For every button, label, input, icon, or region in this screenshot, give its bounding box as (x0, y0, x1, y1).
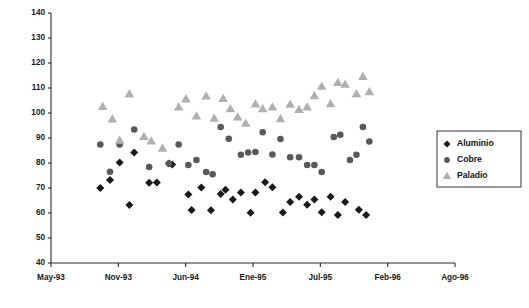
data-point-circle (259, 129, 266, 136)
y-axis-tick-label: 40 (36, 258, 46, 267)
data-point-circle (107, 168, 114, 175)
y-axis-tick-label: 110 (32, 83, 46, 92)
data-point-circle (97, 141, 104, 148)
data-point-circle (209, 171, 216, 178)
y-axis-tick-label: 60 (36, 208, 46, 217)
y-axis-tick-label: 130 (31, 33, 45, 42)
x-axis-tick-label: Nov-93 (105, 273, 133, 282)
data-point-circle (238, 151, 245, 158)
y-axis-tick-label: 120 (31, 58, 45, 67)
x-axis-tick-label: Jul-95 (308, 273, 332, 282)
data-point-circle (185, 162, 192, 169)
x-axis-tick-label: Ene-95 (240, 273, 267, 282)
data-point-circle (360, 124, 367, 131)
data-point-circle (366, 138, 373, 145)
data-point-circle (217, 124, 224, 131)
data-point-circle (146, 164, 153, 171)
data-point-circle (269, 151, 276, 158)
data-point-circle (347, 157, 354, 164)
data-point-circle (353, 151, 360, 158)
data-point-circle (175, 141, 182, 148)
data-point-circle (296, 154, 303, 161)
legend-item-label: Cobre (457, 154, 482, 164)
data-point-circle (166, 160, 173, 167)
data-point-circle (277, 136, 284, 143)
data-point-circle (331, 134, 338, 141)
chart-legend[interactable]: AluminioCobrePaladio (437, 131, 521, 187)
data-point-circle (311, 162, 318, 169)
legend-item-label: Paladio (457, 170, 488, 180)
x-axis-tick-label: Feb-96 (374, 273, 401, 282)
y-axis-tick-label: 90 (36, 133, 46, 142)
data-point-circle (245, 149, 252, 156)
y-axis-tick-label: 50 (36, 233, 46, 242)
y-axis-tick-label: 70 (36, 183, 46, 192)
legend-marker-circle-icon (444, 157, 450, 163)
x-axis-tick-label: Ago-96 (441, 273, 469, 282)
x-axis-tick-label: Jun-94 (172, 273, 199, 282)
y-axis-tick-label: 140 (31, 8, 45, 17)
data-point-circle (337, 131, 344, 138)
x-axis-tick-label: May-93 (37, 273, 65, 282)
data-point-circle (252, 149, 259, 156)
data-point-circle (225, 135, 232, 142)
scatter-chart: 405060708090100110120130140 May-93Nov-93… (0, 0, 529, 308)
data-point-circle (203, 169, 210, 176)
data-point-circle (131, 126, 138, 133)
chart-canvas: 405060708090100110120130140 May-93Nov-93… (0, 0, 529, 308)
data-point-circle (318, 169, 325, 176)
data-point-circle (304, 162, 311, 169)
legend-item-label: Aluminio (457, 138, 494, 148)
data-point-circle (193, 157, 200, 164)
y-axis-tick-label: 100 (31, 108, 45, 117)
data-point-circle (287, 154, 294, 161)
y-axis-tick-label: 80 (36, 158, 46, 167)
